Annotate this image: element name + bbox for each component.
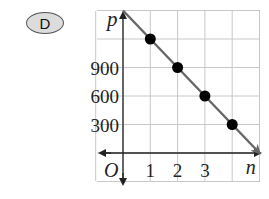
- origin-label: O: [104, 159, 118, 181]
- data-point: [172, 62, 183, 73]
- x-tick-label: 3: [200, 160, 210, 181]
- x-tick-label: 2: [173, 160, 183, 181]
- trend-line: [123, 11, 260, 154]
- grid: [96, 11, 260, 182]
- y-tick-label: 300: [91, 115, 120, 136]
- data-point: [145, 34, 156, 45]
- x-axis-label: n: [246, 156, 256, 178]
- tick-labels: 300600900123Onp: [91, 7, 256, 181]
- x-tick-label: 1: [146, 160, 156, 181]
- y-tick-label: 900: [91, 58, 120, 79]
- data-point: [199, 91, 210, 102]
- y-axis-label: p: [105, 7, 118, 31]
- y-tick-label: 600: [91, 86, 120, 107]
- data-series: [123, 11, 260, 154]
- chart: 300600900123Onp: [0, 0, 269, 199]
- data-point: [227, 119, 238, 130]
